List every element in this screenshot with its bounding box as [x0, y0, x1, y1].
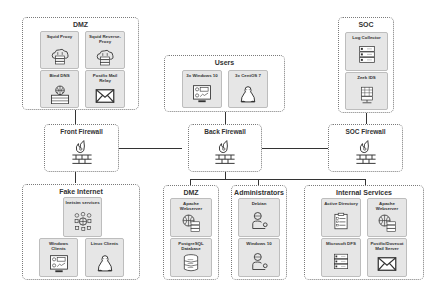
admin-user-icon	[249, 252, 269, 272]
web-server-icon	[376, 213, 398, 233]
server-rack-icon	[356, 45, 378, 65]
node-apache-internal[interactable]: Apache Webserver	[367, 198, 407, 237]
link-dmz-front	[75, 110, 76, 124]
zone-dmz-top: DMZ Squid Proxy Squid Reverse-Proxy Bind…	[22, 17, 139, 110]
database-icon	[181, 253, 201, 273]
mail-icon	[375, 254, 399, 274]
link-back-down	[225, 172, 226, 179]
node-active-directory[interactable]: Active Directory	[321, 198, 361, 237]
network-services-icon	[72, 211, 94, 232]
front-firewall[interactable]: Front Firewall	[44, 124, 119, 172]
firewall-icon	[354, 139, 378, 165]
link-back-soc	[262, 148, 328, 149]
link-users-back	[225, 112, 226, 124]
zone-soc: SOC Log Collector Zeek IDS	[338, 17, 394, 113]
back-firewall[interactable]: Back Firewall	[188, 124, 262, 172]
link-front-back	[119, 148, 182, 149]
link-soc-socfw	[366, 113, 367, 124]
node-squid-reverse-proxy[interactable]: Squid Reverse-Proxy	[85, 31, 125, 69]
node-apache-dmz[interactable]: Apache Webserver	[170, 198, 212, 237]
node-postfix-dovecot[interactable]: Postfix/Dovecot Mail Server	[367, 238, 407, 277]
zone-title: DMZ	[23, 21, 138, 28]
ids-sensor-icon	[357, 85, 377, 105]
windows-workstation-icon	[191, 83, 213, 103]
node-linux-clients[interactable]: Linux Clients	[85, 238, 124, 277]
clipboard-list-icon	[331, 211, 351, 231]
linux-penguin-icon	[237, 84, 259, 104]
soc-firewall[interactable]: SOC Firewall	[328, 124, 403, 172]
cloud-server-icon	[95, 48, 115, 66]
zone-dmz-bottom: DMZ Apache Webserver PostgreSQL Database	[163, 185, 219, 280]
firewall-icon	[213, 139, 237, 165]
firewall-icon	[70, 139, 94, 165]
zone-administrators: Administrators Debian Windows 10	[231, 185, 287, 280]
node-postgresql[interactable]: PostgreSQL Database	[170, 238, 212, 277]
node-squid-proxy[interactable]: Squid Proxy	[40, 31, 79, 69]
web-server-icon	[180, 213, 202, 233]
admin-user-icon	[249, 211, 269, 231]
linux-penguin-icon	[94, 253, 116, 273]
windows-workstation-icon	[48, 253, 70, 273]
node-postfix-relay[interactable]: Postfix Mail Relay	[85, 70, 125, 108]
cloud-server-icon	[50, 47, 70, 65]
link-bus	[190, 179, 365, 180]
server-rack-icon	[331, 252, 351, 272]
node-zeek-ids[interactable]: Zeek IDS	[345, 72, 388, 110]
zone-fake-internet: Fake Internet Inetsim services Windows C…	[22, 184, 140, 280]
zone-users: Users 3x Windows 10 3x CentOS 7	[164, 55, 285, 112]
node-debian-admin[interactable]: Debian	[238, 198, 280, 237]
node-windows10-admin[interactable]: Windows 10	[238, 238, 280, 277]
node-log-collector[interactable]: Log Collector	[345, 32, 388, 71]
node-windows10-users[interactable]: 3x Windows 10	[182, 70, 222, 108]
node-centos-users[interactable]: 3x CentOS 7	[228, 70, 268, 108]
node-microsoft-dfs[interactable]: Microsoft DFS	[321, 238, 361, 277]
link-front-fake	[75, 172, 76, 183]
node-inetsim[interactable]: Inetsim services	[63, 197, 102, 237]
node-windows-clients[interactable]: Windows Clients	[39, 238, 78, 277]
node-bind-dns[interactable]: Bind DNS	[40, 70, 79, 108]
globe-server-icon	[49, 84, 71, 104]
zone-internal-services: Internal Services Active Directory Apach…	[304, 185, 424, 280]
mail-icon	[93, 86, 117, 106]
